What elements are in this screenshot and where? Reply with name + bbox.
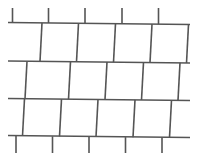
running-bond-pattern-svg [0,0,199,162]
diagram-root [0,0,199,162]
